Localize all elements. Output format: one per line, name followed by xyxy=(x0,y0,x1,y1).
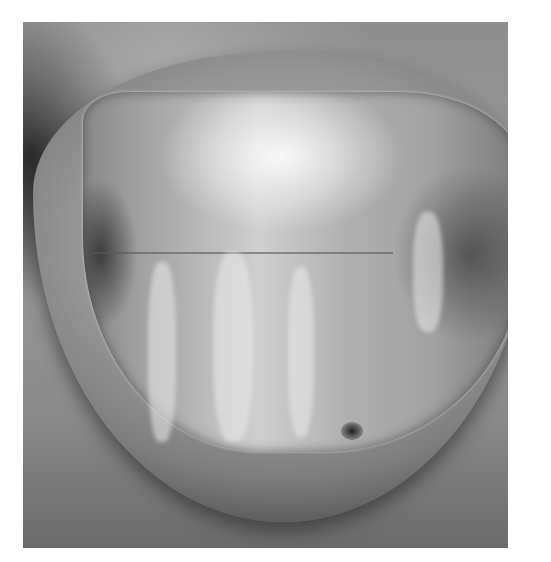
nail-streak xyxy=(148,262,176,442)
nail-streak xyxy=(288,267,314,437)
transverse-nail-line xyxy=(93,252,393,254)
nail-streak xyxy=(413,212,443,332)
nail-dark-spot xyxy=(341,422,363,440)
nail-streak xyxy=(213,252,253,442)
nail-photograph xyxy=(23,22,508,548)
